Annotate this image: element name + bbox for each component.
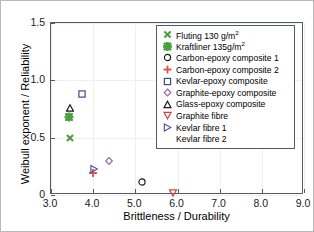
- chart-figure: Weibull exponent / Reliability Brittlene…: [0, 0, 314, 232]
- legend-entry: Kraftliner 135g/m2: [159, 41, 291, 53]
- x-tick: [220, 189, 221, 193]
- legend-label: Glass-epoxy composite: [176, 99, 265, 109]
- x-tick-label: 8.0: [254, 197, 269, 209]
- legend-label: Carbon-epoxy composite 1: [176, 53, 279, 63]
- data-point: [105, 156, 114, 165]
- x-tick: [135, 189, 136, 193]
- x-axis-label: Brittleness / Durability: [50, 210, 303, 222]
- legend-label: Carbon-epoxy composite 2: [176, 65, 279, 75]
- legend-label: Kevlar-epoxy composite: [176, 76, 268, 86]
- legend-label: Kevlar fibre 1: [176, 123, 227, 133]
- legend-entry: Carbon-epoxy composite 2: [159, 64, 291, 76]
- gridline-horizontal: [51, 23, 302, 24]
- legend-label: Graphite fibre: [176, 111, 228, 121]
- y-tick: [51, 195, 55, 196]
- legend-label: Fluting 130 g/m2: [176, 29, 239, 41]
- x-tick-label: 3.0: [43, 197, 58, 209]
- y-tick-label: 0.5: [30, 131, 45, 143]
- x-tick-label: 9.0: [296, 197, 311, 209]
- data-point: [78, 90, 87, 99]
- legend-entry: Graphite fibre: [159, 110, 291, 122]
- gridline-vertical: [51, 23, 52, 193]
- y-tick-label: 1.0: [30, 73, 45, 85]
- x-tick-label: 5.0: [127, 197, 142, 209]
- y-tick: [51, 23, 55, 24]
- legend-marker-icon: [159, 42, 176, 51]
- x-tick: [51, 189, 52, 193]
- legend-marker-icon: [159, 88, 176, 97]
- legend-marker-icon: [159, 65, 176, 74]
- x-tick: [304, 189, 305, 193]
- legend-label: Kraftliner 135g/m2: [176, 40, 245, 52]
- legend-label: Graphite-epoxy composite: [176, 88, 276, 98]
- legend-marker-icon: [159, 100, 176, 109]
- x-tick-label: 6.0: [169, 197, 184, 209]
- legend-marker-icon: [159, 135, 176, 144]
- y-tick-label: 1.5: [30, 16, 45, 28]
- y-axis-label: Weibull exponent / Reliability: [19, 24, 31, 204]
- chart-legend: Fluting 130 g/m2Kraftliner 135g/m2Carbon…: [156, 25, 295, 149]
- x-tick-label: 4.0: [85, 197, 100, 209]
- legend-entry: Kevlar-epoxy composite: [159, 75, 291, 87]
- legend-label: Kevlar fibre 2: [176, 134, 227, 144]
- data-point: [65, 104, 74, 113]
- gridline-vertical: [135, 23, 136, 193]
- legend-entry: Fluting 130 g/m2: [159, 29, 291, 41]
- y-tick: [51, 138, 55, 139]
- legend-marker-icon: [159, 111, 176, 120]
- x-tick: [93, 189, 94, 193]
- legend-marker-icon: [159, 123, 176, 132]
- data-point: [169, 188, 178, 197]
- legend-entry: Carbon-epoxy composite 1: [159, 52, 291, 64]
- legend-entry: Kevlar fibre 1: [159, 122, 291, 134]
- legend-entry: Graphite-epoxy composite: [159, 87, 291, 99]
- legend-marker-icon: [159, 77, 176, 86]
- data-point: [137, 178, 146, 187]
- gridline-vertical: [304, 23, 305, 193]
- data-point: [65, 133, 74, 142]
- x-tick: [262, 189, 263, 193]
- legend-entry: Glass-epoxy composite: [159, 99, 291, 111]
- legend-marker-icon: [159, 53, 176, 62]
- legend-marker-icon: [159, 30, 176, 39]
- data-point: [90, 165, 99, 174]
- legend-entry: Kevlar fibre 2: [159, 133, 291, 145]
- y-tick: [51, 80, 55, 81]
- data-point: [64, 113, 73, 122]
- x-tick-label: 7.0: [211, 197, 226, 209]
